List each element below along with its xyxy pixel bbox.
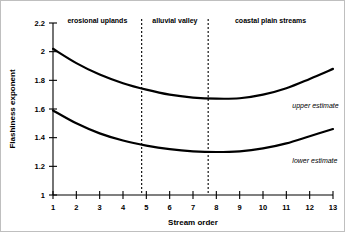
x-tick-label: 4 bbox=[121, 203, 126, 212]
x-tick-label: 3 bbox=[98, 203, 102, 212]
y-tick-label: 1.2 bbox=[35, 162, 45, 171]
y-tick-label: 1 bbox=[41, 191, 45, 200]
x-tick-label: 5 bbox=[144, 203, 148, 212]
y-tick-label: 1.6 bbox=[35, 105, 45, 114]
x-tick-label: 2 bbox=[74, 203, 78, 212]
x-tick-label: 6 bbox=[168, 203, 172, 212]
x-tick-label: 10 bbox=[259, 203, 267, 212]
series-label-upper-estimate: upper estimate bbox=[292, 102, 338, 110]
y-tick-label: 2 bbox=[41, 47, 45, 56]
y-tick-label-group: 11.21.41.61.822.2 bbox=[35, 19, 46, 200]
series-label-lower-estimate: lower estimate bbox=[292, 157, 337, 164]
x-tick-label: 7 bbox=[191, 203, 195, 212]
y-tick-label: 1.8 bbox=[35, 76, 45, 85]
region-label: erosional uplands bbox=[67, 17, 127, 25]
y-axis-title: Flashiness exponent bbox=[8, 69, 17, 148]
flashiness-exponent-chart: 11.21.41.61.822.2 12345678910111213 eros… bbox=[1, 1, 345, 232]
y-tick-label: 1.4 bbox=[35, 133, 46, 142]
series-line-lower-estimate bbox=[53, 110, 333, 152]
x-tick-label: 9 bbox=[238, 203, 242, 212]
series-path-group bbox=[53, 49, 333, 152]
region-label: alluvial valley bbox=[152, 17, 197, 25]
x-tick-label: 11 bbox=[282, 203, 290, 212]
series-line-upper-estimate bbox=[53, 49, 333, 99]
x-tick-label: 13 bbox=[329, 203, 337, 212]
region-label-group: erosional uplandsalluvial valleycoastal … bbox=[67, 17, 306, 25]
y-tick-label: 2.2 bbox=[35, 19, 45, 28]
x-tick-label: 1 bbox=[51, 203, 55, 212]
figure-container: 11.21.41.61.822.2 12345678910111213 eros… bbox=[0, 0, 345, 232]
region-label: coastal plain streams bbox=[235, 17, 306, 25]
x-axis-title: Stream order bbox=[168, 218, 218, 227]
x-tick-label: 8 bbox=[214, 203, 218, 212]
region-divider-group bbox=[142, 19, 209, 195]
x-tick-label: 12 bbox=[305, 203, 313, 212]
x-tick-label-group: 12345678910111213 bbox=[51, 203, 337, 212]
